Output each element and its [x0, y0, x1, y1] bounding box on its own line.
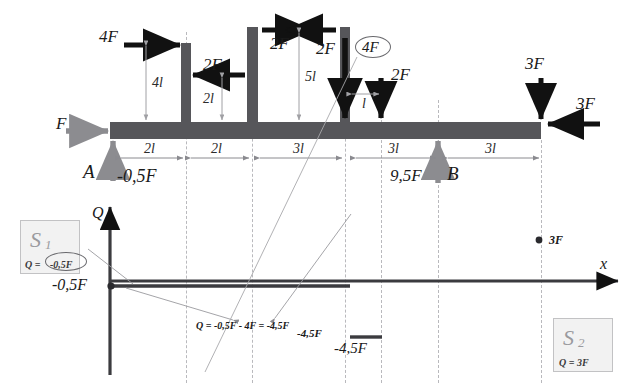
label-support-a: A [83, 162, 95, 181]
label-dim-span-1: 2l [144, 142, 155, 156]
label-dim-span-3: 3l [293, 142, 304, 156]
solution-box-s2-subscript: 2 [578, 336, 585, 349]
label-load-4f-top: 4F [99, 28, 118, 45]
chart-origin-dot [107, 282, 114, 289]
solution-box-s1-equation-prefix: Q = [25, 259, 40, 270]
label-gap-l: l [362, 97, 366, 111]
label-load-2f-topleft: 2F [270, 35, 289, 52]
label-height-4l: 4l [152, 76, 163, 90]
label-load-2f-down: 2F [391, 66, 410, 83]
solution-box-s2-equation: Q = 3F [559, 357, 589, 368]
label-load-f: F [56, 115, 66, 132]
chart-ytick-neg45f-below: -4,5F [334, 341, 367, 356]
label-dim-span-5: 3l [485, 142, 496, 156]
label-load-3f-down: 3F [525, 55, 544, 72]
label-support-b: B [447, 164, 459, 183]
label-load-3f-left: 3F [576, 95, 595, 112]
label-height-5l: 5l [305, 70, 316, 84]
label-support-a-value: -0,5F [117, 167, 157, 185]
chart-ytick-neg05f: -0,5F [52, 277, 87, 293]
chart-xlabel-x: x [600, 256, 607, 272]
chart-point-3f-marker [536, 237, 543, 244]
chart-point-3f-label: 3F [549, 234, 563, 246]
label-support-b-value: 9,5F [390, 167, 422, 184]
leader-annotation-to-step2 [275, 214, 351, 318]
label-load-2f-left: 2F [203, 56, 222, 73]
circle-highlight-s1-value [45, 252, 87, 271]
label-load-4f-circled: 4F [362, 40, 379, 55]
solution-box-s1-subscript: 1 [45, 238, 52, 251]
solution-box-s2-title: S [563, 327, 574, 349]
chart-ylabel-q: Q [92, 205, 104, 221]
solution-box-s1-title: S [30, 229, 41, 251]
mechanics-diagram-canvas: 4F 2F 2F 2F 4F 2F 3F 3F F 4l 2l 5l l A -… [0, 0, 633, 383]
label-dim-span-2: 2l [211, 142, 222, 156]
label-dim-span-4: 3l [388, 142, 399, 156]
solution-box-s2[interactable]: S 2 Q = 3F [553, 318, 613, 372]
chart-ytick-neg45f-left: -4,5F [297, 328, 322, 339]
leader-annotation-to-step1 [126, 288, 233, 320]
label-load-2f-topright: 2F [316, 40, 335, 57]
chart-annotation-step2: Q = -0,5F - 4F = -4,5F [196, 321, 289, 331]
label-height-2l: 2l [203, 92, 214, 106]
